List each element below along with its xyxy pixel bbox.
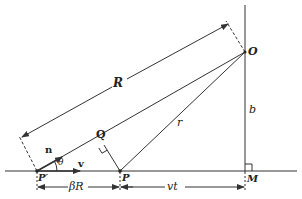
theta-arc: [54, 161, 57, 171]
label-P: P: [122, 173, 130, 183]
label-v: v: [78, 159, 84, 169]
R-extension-right: [226, 21, 245, 52]
point-O: [244, 51, 247, 54]
line-P-Q: [104, 145, 120, 171]
label-Pprime: P′: [38, 173, 48, 183]
label-r: r: [177, 117, 182, 128]
label-b: b: [249, 104, 256, 115]
label-theta: θ: [58, 158, 63, 167]
label-Q: Q: [96, 129, 106, 140]
label-M: M: [247, 174, 258, 184]
R-extension-left: [19, 136, 37, 171]
line-P-O-r: [120, 52, 245, 171]
label-R: R: [113, 77, 123, 89]
label-n: n: [45, 145, 52, 155]
diagram-canvas: [0, 0, 302, 199]
label-O: O: [248, 46, 258, 57]
label-betaR: βR: [69, 181, 84, 192]
right-angle-M: [245, 164, 252, 171]
label-vt: vt: [167, 181, 178, 192]
